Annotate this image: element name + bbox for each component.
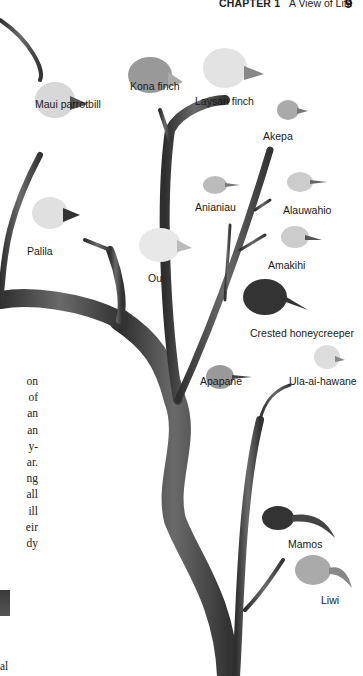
text-line: ng (0, 470, 38, 486)
text-line: y- (0, 438, 38, 454)
bird-label: Ula-ai-hawane (289, 375, 357, 387)
bird-label: Crested honeycreeper (250, 327, 354, 339)
text-line: of (0, 389, 38, 405)
text-line: eir (0, 519, 38, 535)
text-line: an (0, 422, 38, 438)
text-line: dy (0, 535, 38, 551)
text-line: all (0, 486, 38, 502)
text-line: an (0, 405, 38, 421)
body-text-fragments: on of an an y- ar. ng all ill eir dy (0, 373, 38, 551)
bird-label: Mamos (288, 538, 322, 550)
bird-label: Ou (148, 272, 162, 284)
bird-label: Laysan finch (195, 95, 254, 107)
text-line: ill (0, 503, 38, 519)
bird-label: Kona finch (130, 80, 180, 92)
bird-label: Akepa (263, 130, 293, 142)
text-line: on (0, 373, 38, 389)
bird-label: Alauwahio (283, 204, 331, 216)
text-line: ar. (0, 454, 38, 470)
text-fragment: al (0, 660, 8, 672)
bird-label: Apapane (200, 375, 242, 387)
bird-label: Palila (27, 245, 53, 257)
bird-label: Maui parrotbill (35, 98, 101, 110)
section-heading-bar (0, 590, 10, 616)
bird-label: Amakihi (268, 259, 305, 271)
bird-label: Anianiau (195, 201, 236, 213)
bird-label: Liwi (321, 594, 339, 606)
